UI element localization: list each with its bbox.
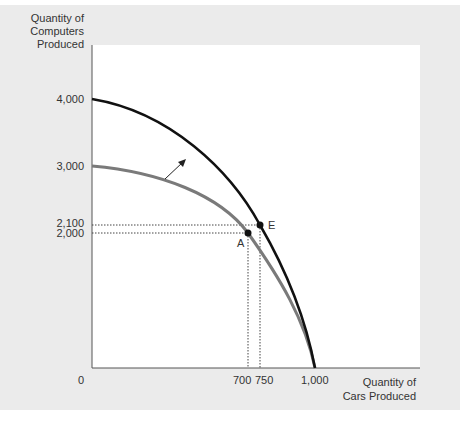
x-tick-700: 700 <box>233 374 251 387</box>
y-tick-2000: 2,000 <box>4 227 84 240</box>
point-a-label: A <box>237 237 244 250</box>
y-tick-4000: 4,000 <box>4 93 84 106</box>
x-tick-750: 750 <box>255 374 273 387</box>
x-axis-title-line2: Cars Produced <box>330 390 416 403</box>
point-e-label: E <box>268 219 275 232</box>
y-axis-title-line2: Computers <box>4 25 84 38</box>
y-axis-title-line1: Quantity of <box>4 12 84 25</box>
point-a <box>245 230 252 237</box>
plot-area <box>92 45 420 368</box>
point-e <box>257 222 264 229</box>
x-tick-1000: 1,000 <box>301 374 329 387</box>
x-axis-title-line1: Quantity of <box>350 376 416 389</box>
ppf-chart <box>0 0 474 427</box>
x-tick-0: 0 <box>78 374 84 387</box>
y-tick-3000: 3,000 <box>4 160 84 173</box>
y-axis-title-line3: Produced <box>4 38 84 51</box>
